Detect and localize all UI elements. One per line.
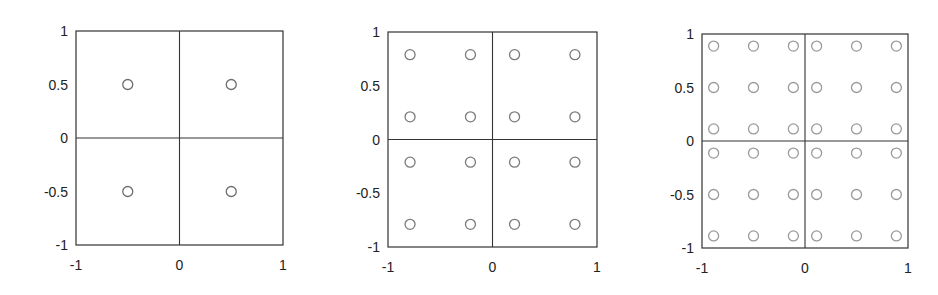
y-tick-label: -0.5 — [44, 184, 68, 200]
data-point-marker — [123, 80, 133, 90]
data-point-marker — [788, 41, 798, 51]
data-point-marker — [749, 231, 759, 241]
data-point-marker — [891, 41, 901, 51]
data-point-marker — [788, 148, 798, 158]
data-point-marker — [123, 187, 133, 197]
data-point-marker — [749, 190, 759, 200]
data-point-marker — [570, 112, 580, 122]
y-tick-label: -1 — [682, 240, 695, 256]
data-point-marker — [812, 231, 822, 241]
x-tick-label: 1 — [593, 259, 601, 275]
data-point-marker — [570, 50, 580, 60]
data-point-marker — [852, 190, 862, 200]
y-tick-label: 1 — [686, 26, 694, 42]
data-point-marker — [891, 190, 901, 200]
data-point-marker — [812, 148, 822, 158]
data-point-marker — [749, 83, 759, 93]
data-point-marker — [465, 219, 475, 229]
data-point-marker — [465, 50, 475, 60]
x-tick-label: 0 — [176, 257, 184, 273]
y-tick-label: 1 — [372, 24, 380, 40]
y-tick-label: 0 — [60, 130, 68, 146]
data-point-marker — [852, 41, 862, 51]
data-point-marker — [709, 41, 719, 51]
data-point-marker — [570, 157, 580, 167]
data-point-marker — [852, 148, 862, 158]
data-point-marker — [226, 80, 236, 90]
panel-3: -101-1-0.500.51 — [670, 26, 912, 276]
y-tick-label: -0.5 — [670, 187, 694, 203]
y-tick-label: 0 — [686, 133, 694, 149]
data-point-marker — [709, 83, 719, 93]
data-point-marker — [709, 124, 719, 134]
y-tick-label: 0 — [372, 132, 380, 148]
data-point-marker — [812, 190, 822, 200]
y-tick-label: 0.5 — [675, 80, 695, 96]
data-point-marker — [405, 112, 415, 122]
data-point-marker — [465, 112, 475, 122]
data-point-marker — [788, 83, 798, 93]
data-point-marker — [852, 231, 862, 241]
x-tick-label: -1 — [70, 257, 83, 273]
data-point-marker — [891, 231, 901, 241]
data-point-marker — [570, 219, 580, 229]
x-tick-label: 0 — [801, 260, 809, 276]
chart-canvas: -101-1-0.500.51-101-1-0.500.51-101-1-0.5… — [0, 0, 938, 295]
panel-1: -101-1-0.500.51 — [44, 23, 287, 273]
data-point-marker — [812, 83, 822, 93]
data-point-marker — [465, 157, 475, 167]
data-point-marker — [788, 190, 798, 200]
data-point-marker — [749, 148, 759, 158]
y-tick-label: 0.5 — [361, 78, 381, 94]
data-point-marker — [405, 219, 415, 229]
data-point-marker — [510, 157, 520, 167]
y-tick-label: 1 — [60, 23, 68, 39]
data-point-marker — [812, 124, 822, 134]
data-point-marker — [749, 41, 759, 51]
data-point-marker — [891, 83, 901, 93]
data-point-marker — [891, 124, 901, 134]
data-point-marker — [709, 231, 719, 241]
data-point-marker — [891, 148, 901, 158]
y-tick-label: -1 — [368, 239, 381, 255]
data-point-marker — [852, 124, 862, 134]
y-tick-label: -1 — [56, 237, 69, 253]
y-tick-label: -0.5 — [356, 185, 380, 201]
data-point-marker — [510, 219, 520, 229]
x-tick-label: 0 — [489, 259, 497, 275]
data-point-marker — [788, 124, 798, 134]
y-tick-label: 0.5 — [49, 77, 69, 93]
data-point-marker — [405, 50, 415, 60]
x-tick-label: -1 — [382, 259, 395, 275]
data-point-marker — [812, 41, 822, 51]
data-point-marker — [510, 50, 520, 60]
x-tick-label: -1 — [696, 260, 709, 276]
data-point-marker — [852, 83, 862, 93]
data-point-marker — [709, 190, 719, 200]
data-point-marker — [510, 112, 520, 122]
x-tick-label: 1 — [904, 260, 912, 276]
panel-2: -101-1-0.500.51 — [356, 24, 601, 275]
data-point-marker — [226, 187, 236, 197]
data-point-marker — [405, 157, 415, 167]
data-point-marker — [788, 231, 798, 241]
x-tick-label: 1 — [279, 257, 287, 273]
data-point-marker — [709, 148, 719, 158]
data-point-marker — [749, 124, 759, 134]
